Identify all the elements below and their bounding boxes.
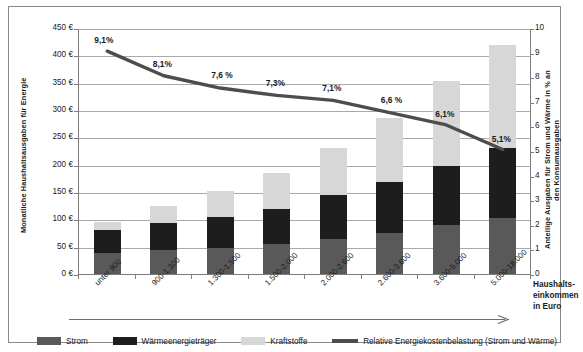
y-tick-label-left: 200 € [33, 160, 73, 169]
x-tick-mark [191, 275, 192, 279]
x-tick-mark [135, 275, 136, 279]
chart-legend: StromWärmeenergieträgerKraftstoffeRelati… [37, 334, 557, 348]
y-tick-label-right: 7 [535, 97, 561, 106]
x-caption-line-3: in Euro [533, 301, 583, 312]
x-caption-line-2: einkommen [533, 290, 583, 301]
y-tick-label-right: 10 [535, 23, 561, 32]
legend-label: Kraftstoffe [270, 337, 307, 346]
swatch-waermeenergietraeger [113, 337, 137, 345]
y-tick-label-right: 5 [535, 146, 561, 155]
percent-label: 8,1% [153, 59, 172, 69]
legend-label: Relative Energiekostenbelastung (Strom u… [363, 337, 557, 346]
x-caption-line-1: Haushalts- [533, 279, 583, 290]
percent-label: 6,6 % [381, 95, 402, 105]
y-tick-label-right: 0 [535, 269, 561, 278]
x-tick-mark [361, 275, 362, 279]
y-tick-label-left: 350 € [33, 78, 73, 87]
y-tick-label-right: 6 [535, 121, 561, 130]
x-axis-caption: Haushalts- einkommen in Euro [533, 279, 583, 312]
swatch-strom [37, 337, 61, 345]
legend-item[interactable]: Strom [37, 337, 88, 346]
x-tick-mark [248, 275, 249, 279]
y-tick-label-right: 2 [535, 220, 561, 229]
percent-label: 9,1% [94, 35, 113, 45]
legend-item[interactable]: Kraftstoffe [241, 337, 307, 346]
x-axis-arrow [69, 315, 514, 324]
legend-item[interactable]: Relative Energiekostenbelastung (Strom u… [332, 337, 557, 346]
x-tick-mark [78, 275, 79, 279]
y-axis-left-title: Monatliche Haushaltsausgaben für Energie [19, 35, 28, 275]
trend-line [79, 29, 531, 275]
y-tick-label-right: 1 [535, 244, 561, 253]
x-tick-mark [304, 275, 305, 279]
y-tick-label-left: 150 € [33, 187, 73, 196]
y-tick-label-left: 450 € [33, 23, 73, 32]
legend-label: Wärmeenergieträger [142, 337, 217, 346]
y-tick-label-left: 300 € [33, 105, 73, 114]
y-tick-label-right: 8 [535, 72, 561, 81]
plot-area [78, 29, 530, 275]
y-tick-label-left: 400 € [33, 50, 73, 59]
chart-frame: Monatliche Haushaltsausgaben für Energie… [8, 6, 561, 343]
y-tick-label-right: 3 [535, 195, 561, 204]
y-tick-label-left: 0 € [33, 269, 73, 278]
swatch-line [332, 339, 358, 343]
x-tick-mark [474, 275, 475, 279]
percent-label: 7,3% [266, 78, 285, 88]
y-tick-label-left: 250 € [33, 132, 73, 141]
percent-label: 7,6 % [211, 70, 232, 80]
x-tick-mark [417, 275, 418, 279]
percent-label: 6,1% [435, 109, 454, 119]
y-tick-label-left: 50 € [33, 242, 73, 251]
percent-label: 7,1% [322, 83, 341, 93]
y-tick-label-left: 100 € [33, 214, 73, 223]
swatch-kraftstoffe [241, 337, 265, 345]
legend-item[interactable]: Wärmeenergieträger [113, 337, 217, 346]
percent-label: 5,1% [492, 134, 511, 144]
y-axis-right-spine [530, 29, 531, 276]
y-tick-label-right: 9 [535, 48, 561, 57]
legend-label: Strom [66, 337, 88, 346]
y-tick-label-right: 4 [535, 171, 561, 180]
